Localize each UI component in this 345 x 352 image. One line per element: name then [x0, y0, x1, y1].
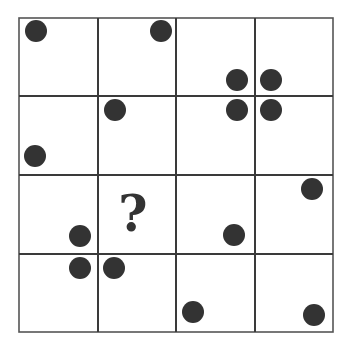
dot [69, 225, 91, 247]
dot [260, 69, 282, 91]
dot [301, 178, 323, 200]
dot [69, 257, 91, 279]
grid-lines [19, 18, 333, 332]
dot [24, 145, 46, 167]
dot [260, 99, 282, 121]
dot [103, 257, 125, 279]
dot [25, 20, 47, 42]
missing-cell-question-mark: ? [118, 189, 147, 239]
dot [226, 99, 248, 121]
dot [303, 304, 325, 326]
dot [226, 69, 248, 91]
dots-layer [24, 20, 325, 326]
puzzle-grid [0, 0, 345, 352]
dot [223, 224, 245, 246]
dot [182, 301, 204, 323]
dot [104, 99, 126, 121]
dot [150, 20, 172, 42]
